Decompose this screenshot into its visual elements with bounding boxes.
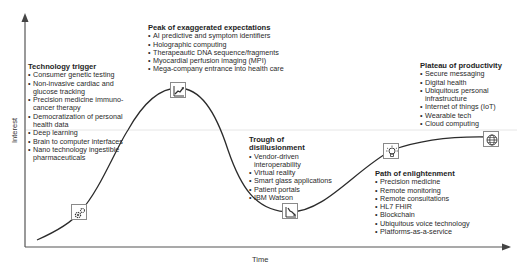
list-item: Mega-company entrance into health care bbox=[148, 65, 328, 73]
path-of-enlightenment-block: Path of enlightenment Precision medicine… bbox=[375, 170, 505, 236]
list-item: IBM Watson bbox=[249, 194, 339, 202]
list-item: Platforms-as-a-service bbox=[375, 228, 505, 236]
x-axis-label: Time bbox=[252, 255, 268, 264]
y-axis-arrow-icon bbox=[22, 13, 29, 22]
list-item: Ubiquitous personal infrastructure bbox=[420, 87, 515, 104]
declining-chart-icon bbox=[282, 203, 298, 219]
list-item: Nano technology ingestible pharmaceutica… bbox=[28, 146, 133, 163]
list-item: Precision medicine immuno-cancer therapy bbox=[28, 96, 133, 113]
list-item: Non-invasive cardiac and glucose trackin… bbox=[28, 80, 133, 97]
peak-block: Peak of exaggerated expectations AI pred… bbox=[148, 24, 328, 74]
technology-trigger-block: Technology trigger Consumer genetic test… bbox=[28, 63, 133, 163]
gears-icon bbox=[71, 204, 87, 220]
y-axis-label: Interest bbox=[10, 113, 19, 149]
plateau-block: Plateau of productivity Secure messaging… bbox=[420, 62, 515, 128]
lightbulb-icon bbox=[383, 143, 399, 159]
globe-icon bbox=[483, 131, 499, 147]
phase-title: Trough of disillusionment bbox=[249, 136, 339, 153]
rising-chart-icon bbox=[170, 82, 186, 98]
list-item: Cloud computing bbox=[420, 120, 515, 128]
list-item: Vendor-driven interoperability bbox=[249, 153, 339, 170]
list-item: Democratization of personal health data bbox=[28, 113, 133, 130]
x-axis-arrow-icon bbox=[502, 244, 511, 251]
trough-block: Trough of disillusionment Vendor-driven … bbox=[249, 136, 339, 202]
